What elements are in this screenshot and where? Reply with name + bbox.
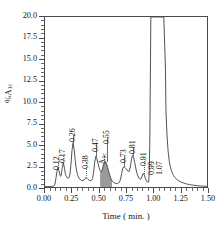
x-tick-minor: [104, 188, 105, 191]
x-tick-major: [208, 188, 209, 193]
y-tick-label: 17.5: [23, 33, 37, 41]
peak-label: 0.26: [69, 128, 77, 142]
x-axis: 0.000.250.500.751.001.251.50: [44, 188, 208, 200]
x-tick-label: 1.25: [166, 194, 196, 203]
x-tick-minor: [66, 188, 67, 191]
y-tick-label: 12.5: [23, 76, 37, 84]
y-tick-label: 10.0: [23, 98, 37, 106]
x-tick-minor: [142, 188, 143, 191]
peak-label-main: A: [97, 158, 106, 164]
y-tick-label: 20.0: [23, 12, 37, 20]
peak-label: 0.47: [92, 139, 100, 153]
x-axis-title: Time ( min. ): [44, 211, 208, 221]
x-tick-minor: [93, 188, 94, 191]
x-tick-minor: [77, 188, 78, 191]
chromatogram-figure: %A1c 0.02.55.07.510.012.515.017.520.0 0.…: [0, 0, 224, 234]
peak-label: 0.73: [120, 149, 128, 163]
x-tick-minor: [192, 188, 193, 191]
x-tick-minor: [110, 188, 111, 191]
x-tick-minor: [170, 188, 171, 191]
x-tick-minor: [82, 188, 83, 191]
x-tick-major: [99, 188, 100, 193]
x-tick-label: 1.00: [138, 194, 168, 203]
x-tick-minor: [115, 188, 116, 191]
x-tick-minor: [159, 188, 160, 191]
peak-label: 0.17: [59, 149, 67, 163]
x-tick-label: 0.50: [84, 194, 114, 203]
y-tick-label: 2.5: [27, 162, 37, 170]
x-tick-label: 1.50: [193, 194, 223, 203]
y-tick-label: 7.5: [27, 119, 37, 127]
y-tick-label: 0.0: [27, 184, 37, 192]
peak-label: 0.81: [129, 140, 137, 154]
x-tick-minor: [164, 188, 165, 191]
x-tick-minor: [50, 188, 51, 191]
x-tick-minor: [121, 188, 122, 191]
y-tick-label: 5.0: [27, 141, 37, 149]
x-tick-major: [126, 188, 127, 193]
x-tick-minor: [175, 188, 176, 191]
x-tick-minor: [137, 188, 138, 191]
x-tick-minor: [55, 188, 56, 191]
x-tick-minor: [203, 188, 204, 191]
x-tick-major: [44, 188, 45, 193]
x-tick-major: [153, 188, 154, 193]
plot-area: 0.120.170.260.380.47A1c0.550.730.810.910…: [44, 16, 208, 188]
peak-label-subscript: 1c: [100, 152, 107, 158]
peak-label: A1c: [98, 152, 108, 164]
peak-label: 0.55: [103, 130, 111, 144]
y-axis: 0.02.55.07.510.012.515.017.520.0: [0, 16, 44, 188]
x-tick-minor: [132, 188, 133, 191]
x-tick-minor: [60, 188, 61, 191]
x-tick-label: 0.00: [29, 194, 59, 203]
x-tick-major: [181, 188, 182, 193]
x-tick-minor: [148, 188, 149, 191]
peak-label: 1.07: [156, 161, 164, 175]
x-tick-label: 0.75: [111, 194, 141, 203]
x-tick-major: [71, 188, 72, 193]
y-tick-label: 15.0: [23, 55, 37, 63]
x-tick-minor: [186, 188, 187, 191]
x-tick-minor: [88, 188, 89, 191]
x-tick-label: 0.25: [56, 194, 86, 203]
a1c-shaded-peak: [100, 162, 112, 188]
peak-label: 0.38: [82, 155, 90, 169]
x-tick-minor: [197, 188, 198, 191]
